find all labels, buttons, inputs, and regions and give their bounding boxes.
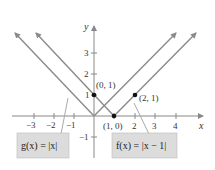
tick-y-neg1: −1 [79,132,89,142]
tick-x-3: 3 [152,121,157,131]
point-2-1 [133,93,138,98]
tick-y-2: 2 [84,69,89,79]
f-label: f(x) = |x − 1| [116,140,166,152]
tick-y-3: 3 [84,48,89,58]
y-axis-label: y [83,21,89,32]
label-point-2-1: (2, 1) [139,93,159,103]
point-0-1 [92,93,97,98]
series-f [36,33,196,116]
graph: −3 −2 −1 2 3 4 x −1 1 2 3 y (0, 1) (1, 0… [0,0,215,170]
x-axis-label: x [198,120,204,131]
point-1-0 [112,114,117,119]
label-point-1-0: (1, 0) [103,121,123,131]
tick-x-neg1: −1 [66,120,76,130]
tick-y-1: 1 [85,90,90,100]
tick-x-neg2: −2 [46,120,56,130]
g-label: g(x) = |x| [21,140,57,152]
tick-x-neg3: −3 [26,120,36,130]
tick-x-4: 4 [173,121,178,131]
tick-x-2: 2 [132,121,137,131]
label-point-0-1: (0, 1) [96,80,116,90]
